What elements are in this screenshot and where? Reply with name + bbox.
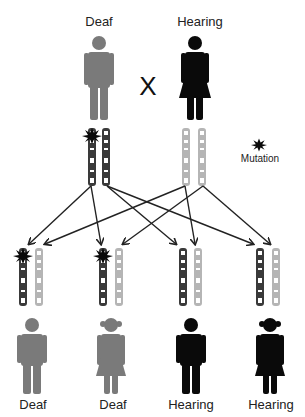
child-3-boy-icon xyxy=(176,318,206,394)
mutation-legend-label: Mutation xyxy=(230,153,290,164)
child-2-mutation-icon xyxy=(93,248,113,264)
mutation-starburst-icon xyxy=(82,128,102,144)
legend-starburst-icon xyxy=(251,139,267,152)
child-4-chromosomes xyxy=(256,248,280,306)
child-4-girl-icon xyxy=(255,318,285,394)
child-2-chromosomes xyxy=(93,248,123,306)
father-chromosome-normal xyxy=(102,128,110,186)
child-3-chromosomes xyxy=(179,248,202,306)
child-2-girl-icon xyxy=(96,318,126,394)
child-3-label: Hearing xyxy=(156,397,226,412)
inheritance-arrows xyxy=(29,186,270,244)
child-2-label: Deaf xyxy=(78,397,148,412)
inheritance-diagram: X xyxy=(0,0,305,417)
father-label: Deaf xyxy=(64,14,134,29)
child-1-label: Deaf xyxy=(0,397,68,412)
mother-label: Hearing xyxy=(165,14,235,29)
child-1-chromosomes xyxy=(13,248,43,306)
father-figure-icon xyxy=(84,36,114,120)
child-1-boy-icon xyxy=(17,318,47,394)
mother-figure-icon xyxy=(179,36,211,120)
child-4-label: Hearing xyxy=(236,397,305,412)
child-1-mutation-icon xyxy=(13,248,33,264)
mother-chromosome-2 xyxy=(198,128,206,186)
mother-chromosome-1 xyxy=(182,128,190,186)
cross-symbol: X xyxy=(139,71,156,101)
